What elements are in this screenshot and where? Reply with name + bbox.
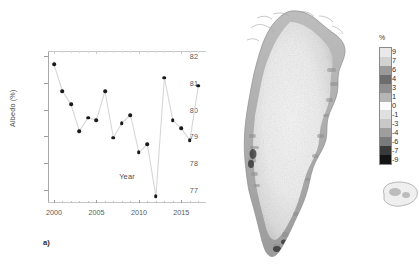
greenland-outline-svg [227, 6, 362, 266]
y-axis-label: Albedo (%) [8, 89, 17, 127]
colorbar-cell [380, 155, 391, 164]
colorbar-tick-label: 7 [392, 56, 396, 65]
colorbar-tick-label: -1 [392, 109, 398, 118]
panel-a-albedo-timeseries: Albedo (%) Year 777879808182 20002005201… [0, 0, 219, 270]
colorbar-cell [380, 93, 391, 102]
data-point [103, 89, 107, 93]
colorbar-tick-label: 3 [392, 83, 396, 92]
colorbar-cell [380, 66, 391, 75]
data-point [197, 84, 201, 88]
data-point [137, 151, 141, 155]
data-point [86, 116, 90, 120]
colorbar-cell [380, 102, 391, 111]
data-point [163, 76, 167, 80]
plot-area: 777879808182 2000200520102015 [48, 51, 206, 203]
colorbar-tick-label: 1 [392, 92, 396, 101]
panel-a-label: a) [43, 238, 50, 247]
colorbar-cell [380, 119, 391, 128]
data-point [61, 89, 65, 93]
figure-container: Albedo (%) Year 777879808182 20002005201… [0, 0, 419, 270]
colorbar-tick-label: 4 [392, 74, 396, 83]
colorbar-tick-label: -3 [392, 118, 398, 127]
colorbar-cell [380, 48, 391, 57]
data-point [78, 129, 82, 133]
iceland-inset-outline [375, 174, 419, 216]
data-point [171, 119, 175, 123]
colorbar-tick-label: 0 [392, 101, 396, 110]
colorbar-cell [380, 128, 391, 137]
data-point [154, 195, 158, 199]
colorbar [379, 47, 392, 165]
data-point [69, 103, 73, 107]
colorbar-cell [380, 146, 391, 155]
greenland-map-image [227, 6, 362, 266]
data-point [120, 121, 124, 125]
x-tick-label: 2005 [88, 208, 104, 217]
data-point [188, 139, 192, 143]
colorbar-tick-label: -4 [392, 127, 398, 136]
x-tick-label: 2015 [173, 208, 189, 217]
data-point [52, 63, 56, 67]
data-point [180, 127, 184, 131]
data-point [95, 119, 99, 123]
colorbar-cell [380, 110, 391, 119]
colorbar-tick-label: 9 [392, 47, 396, 56]
colorbar-cell [380, 137, 391, 146]
x-tick-label: 2000 [46, 208, 62, 217]
data-point [129, 113, 133, 117]
colorbar-unit-label: % [379, 34, 385, 41]
data-point [146, 143, 150, 147]
colorbar-cell [380, 84, 391, 93]
data-point [112, 136, 116, 140]
colorbar-tick-label: -6 [392, 136, 398, 145]
panel-b-greenland-map: % 9764310-1-3-4-6-7-9 b) [219, 0, 419, 270]
plot-frame: 777879808182 2000200520102015 [48, 51, 206, 203]
colorbar-cell [380, 57, 391, 66]
colorbar-tick-label: -7 [392, 145, 398, 154]
colorbar-cell [380, 75, 391, 84]
colorbar-tick-label: 6 [392, 65, 396, 74]
x-tick-label: 2010 [131, 208, 147, 217]
colorbar-tick-label: -9 [392, 154, 398, 163]
